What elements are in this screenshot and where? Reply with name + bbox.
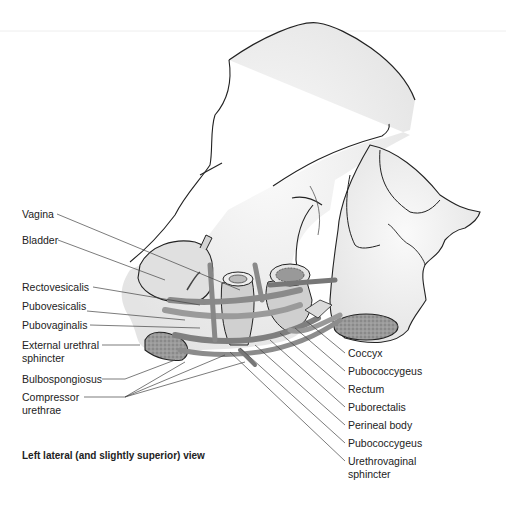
label-rectum: Rectum	[348, 383, 384, 396]
label-pubococcygeus-upper: Pubococcygeus	[348, 365, 422, 378]
label-pubovesicalis: Pubovesicalis	[22, 300, 86, 313]
label-external-urethral-sphincter: External urethral sphincter	[22, 339, 99, 364]
pelvic-floor-illustration	[0, 0, 506, 506]
label-vagina: Vagina	[22, 208, 54, 221]
label-pubovaginalis: Pubovaginalis	[22, 319, 87, 332]
label-rectovesicalis: Rectovesicalis	[22, 281, 89, 294]
coccyx-cut-surface	[334, 314, 398, 340]
figure-caption: Left lateral (and slightly superior) vie…	[22, 450, 205, 461]
label-bulbospongiosus: Bulbospongiosus	[22, 373, 102, 386]
sacrum	[330, 145, 480, 343]
label-compressor-urethrae: Compressor urethrae	[22, 391, 79, 416]
label-bladder: Bladder	[22, 234, 58, 247]
label-pubococcygeus-lower: Pubococcygeus	[348, 437, 422, 450]
label-coccyx: Coccyx	[348, 347, 382, 360]
label-puborectalis: Puborectalis	[348, 401, 406, 414]
label-perineal-body: Perineal body	[348, 419, 412, 432]
vagina	[221, 272, 254, 345]
bladder	[138, 241, 213, 303]
label-urethrovaginal-sphincter: Urethrovaginal sphincter	[348, 455, 416, 480]
